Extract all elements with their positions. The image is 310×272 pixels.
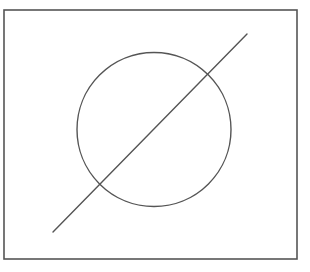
frame-rectangle xyxy=(4,10,297,259)
diagonal-line xyxy=(53,34,247,232)
diagram-canvas xyxy=(0,0,310,272)
